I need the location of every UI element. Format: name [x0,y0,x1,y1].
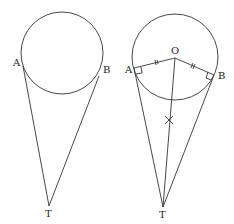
right-figure: O A B T [124,14,225,220]
left-label-T: T [45,208,52,219]
tick-mark-OA-2 [157,60,158,64]
radius-OA [134,58,175,68]
left-label-B: B [103,64,110,75]
left-tangent-TB [49,76,99,206]
left-figure: A B T [12,12,110,219]
left-label-A: A [12,57,21,68]
left-tangent-TA [23,66,49,206]
diagram-canvas: A B T O A B T [0,0,234,224]
left-circle [21,12,103,94]
right-label-O: O [171,45,179,56]
right-tangent-TA [134,68,163,207]
tick-mark-OA-1 [155,60,156,65]
right-label-B: B [218,70,225,81]
right-tangent-TB [163,75,214,207]
segment-OT [163,58,175,207]
right-label-A: A [124,64,133,75]
right-angle-mark-A [136,67,142,74]
right-label-T: T [159,209,166,220]
right-circle [132,14,218,100]
